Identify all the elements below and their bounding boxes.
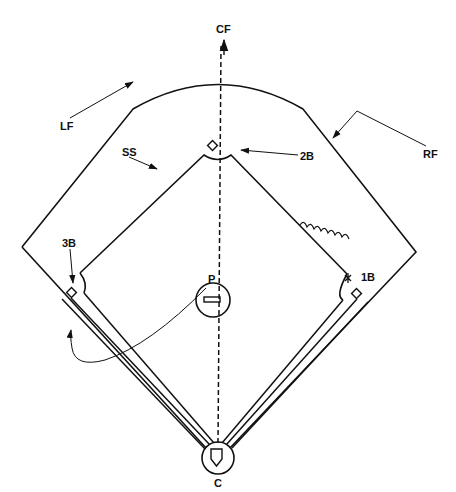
ss-arrow (129, 157, 157, 169)
label-ss: SS (122, 146, 137, 158)
label-1b: 1B (361, 271, 375, 283)
fence-scallops-icon (300, 222, 349, 239)
second-base-icon (208, 141, 218, 151)
label-3b: 3B (62, 237, 76, 249)
label-c: C (214, 477, 222, 489)
lf-arrow (70, 82, 133, 118)
pitcher-rubber-icon (204, 297, 220, 302)
2b-arrow (241, 150, 298, 155)
label-p: P (208, 273, 215, 285)
3b-arrow (70, 249, 73, 283)
rf-arrow (333, 111, 426, 146)
baseball-field-diagram: CF LF RF SS 2B 3B 1B P C (0, 0, 456, 492)
first-base-icon (352, 289, 362, 299)
label-cf: CF (216, 23, 231, 35)
label-2b: 2B (300, 150, 314, 162)
center-line-dashed (218, 46, 221, 444)
label-lf: LF (60, 120, 74, 132)
label-rf: RF (423, 148, 438, 160)
pickoff-curve-arrow (71, 288, 206, 362)
third-base-icon (67, 288, 77, 298)
